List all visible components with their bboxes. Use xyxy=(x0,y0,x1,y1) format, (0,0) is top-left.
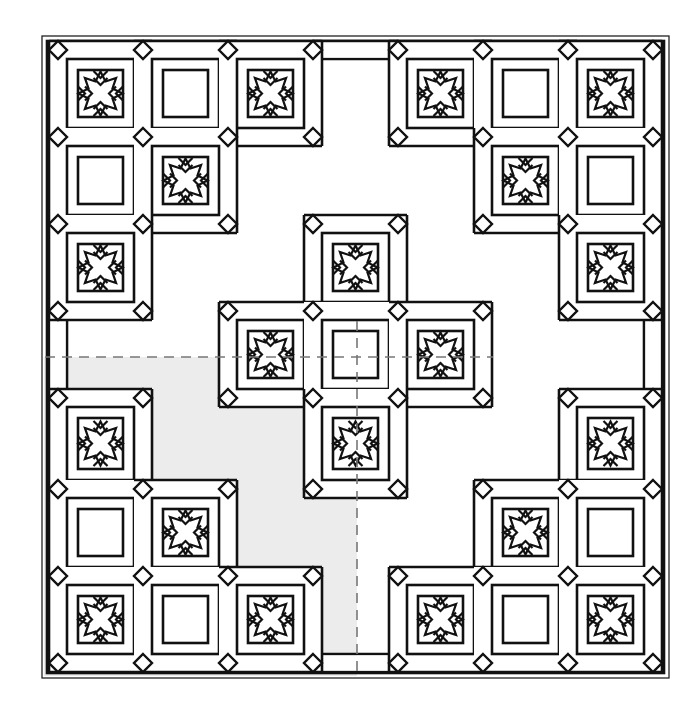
plain-block-square xyxy=(503,70,548,117)
plain-block-square xyxy=(333,331,378,378)
strip-fill xyxy=(315,43,396,58)
star-block xyxy=(559,215,662,320)
plain-block-square xyxy=(503,596,548,643)
plain-block-square xyxy=(588,157,633,204)
plain-block-square xyxy=(588,509,633,556)
plain-block-square xyxy=(163,596,208,643)
plain-block-square xyxy=(78,157,123,204)
strip-fill xyxy=(646,313,661,396)
strip-fill xyxy=(51,313,66,396)
star-block xyxy=(559,567,662,672)
plain-block-square xyxy=(78,509,123,556)
star-block xyxy=(49,215,152,320)
strip-fill xyxy=(315,656,396,671)
star-block xyxy=(219,567,322,672)
plain-block-square xyxy=(163,70,208,117)
quilt-diagram xyxy=(0,0,700,719)
quilt-layout-svg xyxy=(0,0,700,719)
star-block xyxy=(304,389,407,498)
